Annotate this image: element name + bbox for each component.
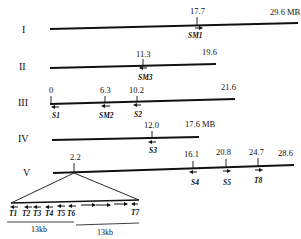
arrow-left-icon	[57, 204, 65, 208]
marker-2-2: 2.2	[70, 152, 81, 172]
scale-bar-2: 13kb	[76, 223, 139, 237]
position-label: 17.7	[190, 6, 205, 16]
length-label: 28.6	[278, 148, 293, 158]
chromosome-bar	[50, 64, 216, 68]
arrow-left-icon	[148, 140, 156, 144]
arrow-left-icon	[68, 204, 76, 208]
position-label: 12.0	[144, 120, 159, 130]
chromosome-bar	[52, 137, 199, 140]
chromosome-bar	[53, 165, 294, 173]
gene-label: S3	[149, 146, 157, 155]
gene-unlabeled-3	[114, 202, 128, 206]
chromosome-label: II	[19, 61, 26, 72]
chromosome-V: V 28.6 2.2 16.1 S4 20.8 S5 24.7	[23, 147, 294, 187]
gene-label: T3	[33, 209, 42, 218]
length-label: 21.6	[221, 82, 236, 92]
position-label: 20.8	[216, 147, 231, 157]
genome-map: I 29.6 MB 17.7 SM1 II 19.6 11.3 SM3	[0, 0, 301, 239]
arrow-left-icon	[133, 103, 141, 107]
position-label: 24.7	[249, 147, 264, 157]
arrow-left-icon	[189, 170, 197, 174]
gene-T6: T6	[67, 204, 76, 218]
gene-label: T1	[9, 209, 17, 218]
scale-label: 13kb	[31, 225, 47, 234]
gene-label: T7	[131, 208, 140, 217]
zoom-line-left	[11, 173, 74, 203]
gene-label: S1	[52, 111, 60, 120]
arrow-left-icon	[131, 202, 138, 206]
gene-label: T4	[45, 209, 54, 218]
length-label: 29.6 MB	[270, 7, 301, 17]
chromosome-label: IV	[18, 133, 29, 144]
gene-unlabeled-2	[96, 203, 111, 207]
length-label: 17.6 MB	[185, 119, 216, 129]
gene-label: T8	[254, 176, 263, 185]
gene-unlabeled-1	[81, 203, 96, 207]
arrow-left-icon	[51, 105, 59, 109]
gene-T1: T1	[9, 205, 18, 218]
marker-SM1: 17.7 SM1	[188, 6, 205, 40]
arrow-left-icon	[101, 104, 110, 108]
gene-label: SM2	[99, 111, 114, 120]
gene-T4: T4	[45, 205, 54, 218]
position-label: 10.2	[129, 85, 144, 95]
position-label: 11.3	[136, 49, 151, 59]
arrow-right-icon	[81, 203, 96, 207]
gene-T5: T5	[57, 204, 66, 218]
chromosome-label: III	[18, 97, 28, 108]
zoom-line-right	[74, 173, 139, 200]
gene-label: SM1	[188, 31, 203, 40]
gene-label: T5	[57, 209, 66, 218]
arrow-right-icon	[114, 202, 128, 206]
position-label: 0	[49, 85, 53, 95]
gene-label: S2	[134, 110, 142, 119]
gene-label: S4	[191, 178, 199, 187]
position-label: 16.1	[184, 149, 199, 159]
arrow-right-icon	[195, 26, 203, 30]
position-label: 6.3	[100, 85, 111, 95]
arrow-right-icon	[96, 203, 111, 207]
chromosome-II: II 19.6 11.3 SM3	[19, 47, 217, 82]
gene-T3: T3	[33, 205, 42, 218]
chromosome-I: I 29.6 MB 17.7 SM1	[22, 6, 301, 40]
gene-T2: T2	[22, 205, 32, 218]
arrow-right-icon	[255, 168, 263, 172]
gene-label: S5	[223, 178, 231, 187]
cluster-inset: T1 T2 T3 T4	[7, 173, 140, 237]
chromosome-bar	[50, 99, 235, 104]
gene-label: T6	[67, 209, 76, 218]
chromosome-label: I	[22, 24, 25, 35]
cluster-bar	[11, 200, 139, 203]
position-label: 2.2	[70, 152, 81, 162]
chromosome-label: V	[23, 167, 31, 178]
length-label: 19.6	[202, 47, 217, 57]
scale-label: 13kb	[97, 228, 113, 237]
arrow-right-icon	[223, 169, 231, 173]
marker-S1: 0 S1	[49, 85, 60, 120]
chromosome-bar	[50, 23, 298, 29]
gene-label: SM3	[138, 73, 153, 82]
gene-label: T2	[22, 209, 31, 218]
chromosome-III: III 21.6 0 S1 6.3 SM2 10.2	[18, 82, 236, 120]
gene-T7: T7	[131, 202, 140, 217]
scale-bar-1: 13kb	[7, 222, 74, 234]
